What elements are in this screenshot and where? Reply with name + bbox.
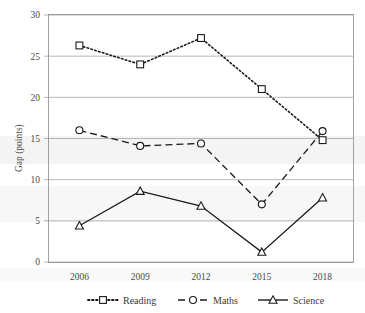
x-tick-label: 2018: [313, 272, 332, 282]
y-tick-label: 10: [31, 175, 41, 185]
line-chart-figure: Gap (points) 051015202530 20062009201220…: [0, 0, 365, 313]
chart-svg: Gap (points) 051015202530 20062009201220…: [0, 0, 365, 313]
legend-item-reading[interactable]: Reading: [88, 295, 156, 306]
series-line-science: [79, 191, 322, 252]
data-point-maths-2018: [319, 128, 326, 135]
y-tick-label: 25: [31, 52, 41, 62]
data-point-reading-2009: [137, 61, 144, 68]
y-tick-labels: 051015202530: [31, 10, 41, 267]
data-point-maths-2015: [258, 201, 265, 208]
x-tick-labels: 20062009201220152018: [70, 272, 332, 282]
y-tick-label: 30: [31, 10, 41, 20]
data-point-reading-2018: [319, 137, 326, 144]
x-tick-label: 2015: [252, 272, 271, 282]
series-markers: [75, 35, 326, 256]
legend-swatch-marker: [100, 297, 107, 304]
legend-item-maths[interactable]: Maths: [178, 295, 238, 306]
legend-label: Science: [293, 295, 325, 306]
y-axis-title: Gap (points): [14, 124, 25, 172]
legend-swatch-marker: [190, 297, 197, 304]
y-tick-label: 20: [31, 93, 41, 103]
chart-legend: ReadingMathsScience: [88, 295, 325, 306]
y-tick-label: 5: [35, 216, 40, 226]
data-point-reading-2015: [258, 86, 265, 93]
y-tick-label: 15: [31, 134, 41, 144]
x-tick-label: 2006: [70, 272, 89, 282]
x-tick-label: 2012: [192, 272, 211, 282]
gridlines: [49, 15, 353, 262]
y-tick-label: 0: [35, 257, 40, 267]
legend-item-science[interactable]: Science: [258, 295, 325, 306]
legend-label: Maths: [213, 295, 238, 306]
data-point-science-2009: [136, 187, 144, 194]
legend-label: Reading: [123, 295, 156, 306]
data-point-science-2006: [75, 222, 83, 229]
data-point-maths-2012: [198, 140, 205, 147]
data-point-maths-2006: [76, 127, 83, 134]
series-line-reading: [79, 38, 322, 140]
data-point-maths-2009: [137, 142, 144, 149]
y-axis-title-group: Gap (points): [14, 124, 25, 172]
data-point-reading-2006: [76, 42, 83, 49]
x-tick-label: 2009: [131, 272, 150, 282]
data-point-reading-2012: [198, 35, 205, 42]
data-point-science-2018: [319, 194, 327, 201]
